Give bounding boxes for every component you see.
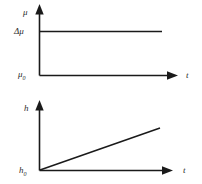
two-panel-figure: μ Δμ μ0 t h h0 t xyxy=(0,0,202,184)
y-axis-arrow-icon xyxy=(35,100,43,111)
y-axis-label: h xyxy=(24,103,29,113)
x-axis-label: t xyxy=(183,165,186,175)
x-axis-label: t xyxy=(186,70,189,80)
chart-panel-chemical-potential: μ Δμ μ0 t xyxy=(0,0,202,92)
x-axis-arrow-icon xyxy=(167,71,178,80)
series-line-h xyxy=(40,128,160,170)
chart-panel-height: h h0 t xyxy=(0,92,202,184)
ytick-label-h-zero: h0 xyxy=(19,165,27,177)
ytick-label-mu-zero: μ0 xyxy=(17,69,26,81)
ytick-label-delta-mu: Δμ xyxy=(13,26,24,36)
x-axis-arrow-icon xyxy=(162,166,173,175)
y-axis-label: μ xyxy=(22,7,28,17)
y-axis-arrow-icon xyxy=(35,4,43,15)
